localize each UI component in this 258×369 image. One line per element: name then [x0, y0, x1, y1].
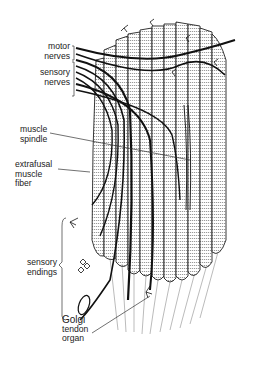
label-line: organ — [62, 334, 88, 344]
label-line: endings — [0, 268, 57, 278]
label-line: spindle — [20, 135, 47, 145]
label-sensory-nerves: sensory nerves — [0, 68, 70, 87]
label-extrafusal-muscle-fiber: extrafusal muscle fiber — [15, 160, 52, 189]
label-golgi-tendon-organ: Golgi tendon organ — [62, 315, 88, 344]
label-line: nerves — [0, 78, 70, 88]
label-muscle-spindle: muscle spindle — [20, 125, 47, 144]
label-sensory-endings: sensory endings — [0, 258, 57, 277]
label-motor-nerves: motor nerves — [0, 42, 70, 61]
label-line: fiber — [15, 179, 52, 189]
muscle-diagram: motor nerves sensory nerves muscle spind… — [0, 0, 258, 369]
golgi-tendon-organ-icon — [76, 294, 92, 316]
label-line: nerves — [0, 52, 70, 62]
